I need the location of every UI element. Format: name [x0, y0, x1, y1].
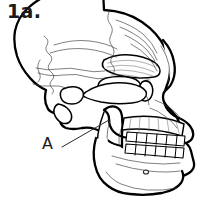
skull-illustration [0, 0, 203, 207]
external-auditory-meatus [60, 87, 83, 104]
callout-label-a: A [42, 136, 53, 152]
figure-canvas: 1a. A [0, 0, 203, 207]
figure-number-label: 1a. [7, 2, 41, 21]
